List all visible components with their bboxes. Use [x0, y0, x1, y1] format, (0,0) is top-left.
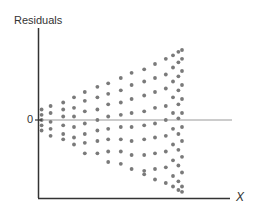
- data-point: [153, 167, 157, 171]
- data-point: [142, 123, 146, 127]
- data-point: [171, 143, 175, 147]
- data-point: [72, 95, 76, 99]
- data-point: [142, 94, 146, 98]
- data-point: [96, 85, 100, 89]
- data-point: [106, 102, 110, 106]
- data-point: [177, 148, 181, 152]
- data-point: [164, 87, 168, 91]
- data-point: [153, 151, 157, 155]
- data-point: [153, 122, 157, 126]
- data-point: [171, 174, 175, 178]
- data-point: [83, 99, 87, 103]
- data-point: [164, 181, 168, 185]
- data-point: [130, 111, 134, 115]
- data-point: [49, 120, 53, 124]
- data-point: [96, 108, 100, 112]
- data-point: [130, 153, 134, 157]
- data-point: [130, 167, 134, 171]
- data-point: [61, 108, 65, 112]
- data-point: [130, 83, 134, 87]
- data-point: [119, 150, 123, 154]
- data-point: [96, 151, 100, 155]
- data-point: [171, 158, 175, 162]
- data-point: [180, 190, 184, 194]
- data-point: [180, 125, 184, 129]
- data-point: [72, 143, 76, 147]
- data-point: [40, 123, 44, 127]
- data-point: [177, 88, 181, 92]
- data-point: [164, 104, 168, 108]
- data-point: [83, 141, 87, 145]
- data-point: [177, 164, 181, 168]
- data-point: [164, 57, 168, 61]
- data-point: [177, 188, 181, 192]
- data-point: [130, 71, 134, 75]
- data-point: [153, 62, 157, 66]
- data-point: [40, 113, 44, 117]
- data-point: [61, 123, 65, 127]
- data-point: [72, 136, 76, 140]
- data-point: [83, 90, 87, 94]
- data-point: [96, 139, 100, 143]
- zero-tick-label: 0: [27, 113, 33, 125]
- data-point: [142, 172, 146, 176]
- data-point: [180, 48, 184, 52]
- data-point: [119, 88, 123, 92]
- data-point: [180, 57, 184, 61]
- data-point: [171, 66, 175, 70]
- data-point: [119, 125, 123, 129]
- data-point: [164, 150, 168, 154]
- data-point: [61, 101, 65, 105]
- data-point: [119, 162, 123, 166]
- data-point: [106, 92, 110, 96]
- data-point: [142, 153, 146, 157]
- data-point: [171, 53, 175, 57]
- data-point: [164, 118, 168, 122]
- data-point: [180, 83, 184, 87]
- data-point: [72, 115, 76, 119]
- data-point: [119, 113, 123, 117]
- data-point: [83, 151, 87, 155]
- data-point: [164, 73, 168, 77]
- data-point: [130, 125, 134, 129]
- data-point: [40, 129, 44, 133]
- data-point: [171, 95, 175, 99]
- data-point: [61, 115, 65, 119]
- x-axis-label: X: [236, 190, 244, 204]
- data-point: [142, 80, 146, 84]
- data-point: [130, 97, 134, 101]
- data-point: [61, 137, 65, 141]
- data-point: [180, 185, 184, 189]
- data-point: [83, 132, 87, 136]
- data-point: [153, 90, 157, 94]
- data-point: [142, 137, 146, 141]
- data-point: [180, 97, 184, 101]
- data-point: [106, 81, 110, 85]
- data-point: [177, 50, 181, 54]
- data-point: [171, 80, 175, 84]
- data-point: [171, 111, 175, 115]
- data-point: [49, 134, 53, 138]
- data-point: [180, 155, 184, 159]
- data-point: [177, 74, 181, 78]
- data-point: [72, 125, 76, 129]
- data-point: [142, 169, 146, 173]
- data-point: [177, 116, 181, 120]
- data-point: [49, 104, 53, 108]
- data-point: [96, 95, 100, 99]
- data-point: [96, 129, 100, 133]
- data-point: [180, 69, 184, 73]
- residual-plot: [0, 0, 254, 215]
- data-point: [106, 115, 110, 119]
- data-point: [153, 106, 157, 110]
- data-point: [171, 185, 175, 189]
- residual-points: [40, 48, 184, 194]
- data-point: [119, 101, 123, 105]
- data-point: [180, 111, 184, 115]
- data-point: [61, 132, 65, 136]
- data-point: [119, 137, 123, 141]
- data-point: [130, 139, 134, 143]
- data-point: [177, 102, 181, 106]
- data-point: [164, 165, 168, 169]
- data-point: [177, 132, 181, 136]
